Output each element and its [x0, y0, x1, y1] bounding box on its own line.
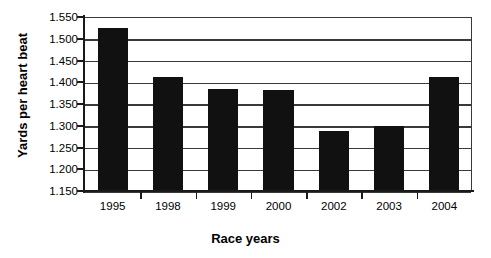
x-axis-tick-mark — [196, 192, 198, 199]
bar — [374, 126, 404, 191]
y-axis-tick-label: 1.200 — [36, 163, 78, 175]
y-axis-tick-mark — [77, 16, 84, 18]
y-axis-tick-labels: 1.5501.5001.4501.4001.3501.3001.2501.200… — [36, 17, 78, 191]
y-axis-tick-label: 1.150 — [36, 185, 78, 197]
bar — [208, 89, 238, 191]
y-axis-title: Yards per heart beat — [15, 0, 30, 196]
bar-chart: Yards per heart beat 1.5501.5001.4501.40… — [0, 0, 491, 258]
y-axis-tick-label: 1.450 — [36, 55, 78, 67]
y-axis-tick-label: 1.350 — [36, 98, 78, 110]
x-axis-tick-mark — [361, 192, 363, 199]
bar — [98, 28, 128, 191]
x-axis-tick-mark — [251, 192, 253, 199]
x-axis-tick-mark — [417, 192, 419, 199]
x-axis-tick-label: 1995 — [100, 200, 126, 212]
y-axis-tick-label: 1.300 — [36, 120, 78, 132]
y-axis-tick-mark — [77, 38, 84, 40]
y-axis-tick-label: 1.400 — [36, 76, 78, 88]
y-axis-tick-mark — [77, 81, 84, 83]
y-axis-tick-label: 1.500 — [36, 33, 78, 45]
bar — [153, 77, 183, 191]
x-axis-tick-label: 2000 — [266, 200, 292, 212]
y-axis-tick-mark — [77, 103, 84, 105]
x-axis-tick-label: 1998 — [155, 200, 181, 212]
bar — [429, 77, 459, 191]
x-axis-tick-label: 2004 — [432, 200, 458, 212]
y-axis-tick-mark — [77, 147, 84, 149]
bars-layer — [85, 17, 472, 191]
x-axis-title: Race years — [0, 231, 491, 246]
x-axis-tick-label: 2003 — [376, 200, 402, 212]
y-axis-tick-mark — [77, 60, 84, 62]
y-axis-tick-label: 1.250 — [36, 142, 78, 154]
bar — [319, 131, 349, 191]
x-axis-tick-labels: 1995199819992000200220032004 — [85, 200, 472, 218]
x-axis-tick-label: 1999 — [210, 200, 236, 212]
y-axis-tick-mark — [77, 168, 84, 170]
x-axis-tick-mark — [140, 192, 142, 199]
y-axis-tick-label: 1.550 — [36, 11, 78, 23]
x-axis-tick-label: 2002 — [321, 200, 347, 212]
x-axis-tick-mark — [306, 192, 308, 199]
bar — [263, 90, 293, 191]
y-axis-tick-mark — [77, 125, 84, 127]
y-axis-tick-mark — [77, 190, 84, 192]
